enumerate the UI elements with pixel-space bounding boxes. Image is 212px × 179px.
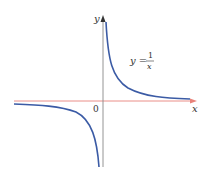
x-axis-label: x (192, 103, 198, 114)
origin-label: 0 (93, 104, 99, 114)
hyperbola-graph: y x 0 y = 1 x (0, 0, 212, 179)
function-annotation: y = 1 x (129, 51, 154, 71)
svg-text:1: 1 (148, 51, 153, 60)
y-axis-label: y (93, 13, 100, 24)
svg-text:y =: y = (129, 55, 147, 66)
y-axis-arrow-icon (101, 15, 106, 22)
curve-right-branch (106, 22, 190, 99)
svg-text:x: x (147, 62, 152, 71)
curve-left-branch (14, 104, 99, 167)
